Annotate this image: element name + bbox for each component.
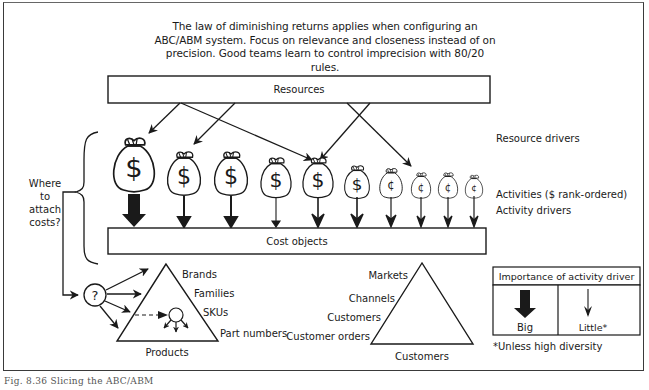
- dollar-icon: $: [177, 163, 191, 189]
- driver-importance-legend: Importance of activity driver Big Little…: [493, 267, 640, 352]
- customers-level-3: Customers: [327, 312, 381, 323]
- cost-objects-label: Cost objects: [266, 236, 327, 247]
- activity-bag-10: ¢: [465, 175, 482, 198]
- activity-bag-8: ¢: [411, 173, 430, 198]
- products-title: Products: [145, 347, 188, 358]
- activity-bag-6: $: [345, 166, 370, 199]
- question-line-2: to: [40, 191, 50, 202]
- customers-title: Customers: [395, 351, 449, 362]
- products-level-3: SKUs: [203, 307, 228, 318]
- legend-title: Importance of activity driver: [499, 271, 635, 282]
- products-level-2: Families: [194, 288, 234, 299]
- abc-abm-diagram: Resources $ $ $ $ $ $: [0, 0, 649, 390]
- dollar-icon: $: [352, 175, 363, 194]
- figure-caption: Fig. 8.36 Slicing the ABC/ABM: [4, 376, 154, 386]
- legend-little-label: Little*: [579, 322, 608, 333]
- question-line-4: costs?: [29, 217, 60, 228]
- activity-bag-4: $: [261, 158, 291, 198]
- question-line-3: attach: [29, 204, 61, 215]
- products-pyramid: Brands Families SKUs Part numbers Produc…: [117, 264, 287, 358]
- products-level-1: Brands: [182, 269, 217, 280]
- where-to-attach-costs-label: Where to attach costs?: [29, 178, 61, 228]
- activity-bag-3: $: [215, 152, 248, 195]
- brace-to-question-connector: [63, 192, 78, 295]
- dollar-icon: $: [312, 168, 325, 192]
- question-circle: ?: [84, 284, 106, 306]
- products-level-4: Part numbers: [220, 328, 287, 339]
- question-line-1: Where: [29, 178, 61, 189]
- dollar-icon: $: [224, 163, 238, 189]
- cent-icon: ¢: [418, 182, 424, 193]
- dollar-icon: $: [125, 152, 142, 183]
- question-mark-icon: ?: [92, 288, 99, 303]
- cost-objects-box: Cost objects: [108, 228, 486, 254]
- curly-brace: [76, 132, 98, 264]
- resources-box: Resources: [108, 76, 490, 103]
- resources-label: Resources: [273, 84, 324, 95]
- resource-drivers-label: Resource drivers: [496, 133, 580, 144]
- customers-level-2: Channels: [349, 293, 395, 304]
- activity-driver-arrows: [122, 194, 478, 227]
- activities-row: $ $ $ $ $ $ ¢ ¢: [114, 138, 483, 198]
- customers-level-4: Customer orders: [286, 331, 370, 342]
- customers-level-1: Markets: [368, 270, 408, 281]
- activity-bag-1: $: [114, 138, 155, 191]
- activity-bag-9: ¢: [438, 173, 457, 198]
- activity-bag-2: $: [168, 152, 201, 195]
- activity-bag-5: $: [303, 158, 333, 198]
- legend-big-label: Big: [517, 322, 533, 333]
- dollar-icon: $: [270, 168, 283, 192]
- activity-drivers-label: Activity drivers: [496, 205, 571, 216]
- cent-icon: ¢: [471, 183, 477, 193]
- legend-footnote: *Unless high diversity: [493, 341, 602, 352]
- cent-icon: ¢: [387, 178, 394, 192]
- customers-pyramid: Markets Channels Customers Customer orde…: [286, 263, 473, 362]
- cent-icon: ¢: [445, 182, 451, 193]
- activities-label: Activities ($ rank-ordered): [496, 189, 627, 200]
- activity-bag-7: ¢: [380, 169, 402, 198]
- big-driver-arrow-icon: [122, 194, 146, 227]
- sku-node-icon: [169, 308, 183, 322]
